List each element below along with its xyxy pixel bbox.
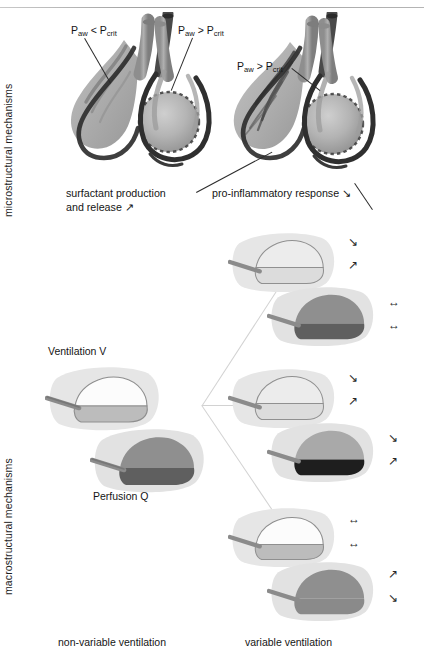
leader-line-inflammatory [354, 183, 373, 210]
arrow-bottom-perfusion-1: ↗ [388, 568, 398, 580]
relation-operator: > [257, 60, 263, 72]
caption-surfactant-line1: surfactant production [66, 187, 166, 201]
caption-surfactant-line2: and release ↗ [66, 201, 166, 215]
p-crit-subscript: crit [107, 29, 117, 38]
lung-unit-bottom-perfusion [267, 557, 379, 625]
p-crit-symbol: P [207, 24, 214, 36]
pressure-label-right-open: Paw > Pcrit [237, 60, 283, 74]
lung-unit-top-perfusion [267, 282, 379, 350]
arrow-top-perfusion-2: ↔ [388, 319, 400, 331]
arrow-bottom-ventilation-2: ↔ [348, 537, 360, 549]
p-aw-symbol: P [71, 24, 78, 36]
label-non-variable-ventilation: non-variable ventilation [58, 636, 166, 648]
figure-canvas: microstructural mechanisms macrostructur… [0, 0, 424, 663]
arrow-top-ventilation-1: ↘ [348, 236, 358, 248]
lung-unit-perfusion-source [90, 424, 210, 496]
p-crit-subscript: crit [214, 29, 224, 38]
pressure-label-left-open: Paw > Pcrit [178, 24, 224, 38]
arrow-middle-perfusion-2: ↗ [388, 455, 398, 467]
alveolar-cluster-right [228, 12, 378, 182]
axis-label-macrostructural: macrostructural mechanisms [2, 335, 14, 595]
arrow-bottom-ventilation-1: ↔ [348, 513, 360, 525]
arrow-middle-perfusion-1: ↘ [388, 432, 398, 444]
arrow-top-ventilation-2: ↗ [348, 259, 358, 271]
caption-proinflammatory: pro-inflammatory response ↘ [212, 187, 351, 201]
arrow-middle-ventilation-1: ↘ [348, 372, 358, 384]
p-aw-subscript: aw [185, 29, 195, 38]
p-aw-symbol: P [237, 60, 244, 72]
relation-operator: < [91, 24, 97, 36]
arrow-top-perfusion-1: ↔ [388, 296, 400, 308]
p-aw-symbol: P [178, 24, 185, 36]
p-aw-subscript: aw [244, 65, 254, 74]
top-divider-rule [0, 7, 424, 8]
axis-label-microstructural: microstructural mechanisms [2, 22, 14, 217]
arrow-bottom-perfusion-2: ↘ [388, 592, 398, 604]
p-crit-subscript: crit [273, 65, 283, 74]
label-ventilation: Ventilation V [48, 345, 106, 357]
pressure-label-left-collapsed: Paw < Pcrit [71, 24, 117, 38]
arrow-middle-ventilation-2: ↗ [348, 395, 358, 407]
caption-surfactant: surfactant production and release ↗ [66, 187, 166, 214]
p-aw-subscript: aw [78, 29, 88, 38]
p-crit-symbol: P [100, 24, 107, 36]
lung-unit-middle-perfusion [267, 418, 379, 486]
p-crit-symbol: P [266, 60, 273, 72]
relation-operator: > [198, 24, 204, 36]
label-perfusion: Perfusion Q [93, 490, 148, 502]
label-variable-ventilation: variable ventilation [245, 636, 332, 648]
